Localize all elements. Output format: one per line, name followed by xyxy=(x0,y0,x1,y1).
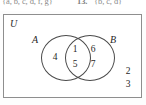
element-b-only-1: 7 xyxy=(88,59,98,69)
cropped-answer-line: {a, b, c, d, f, g} 13. {b, c, d} xyxy=(0,0,146,11)
element-outside-1: 3 xyxy=(123,79,133,89)
venn-diagram-figure: {a, b, c, d, f, g} 13. {b, c, d} U A B 4… xyxy=(0,0,146,105)
element-intersection-0: 1 xyxy=(70,44,80,54)
element-b-only-0: 6 xyxy=(88,44,98,54)
element-a-only-0: 4 xyxy=(50,52,60,62)
element-intersection-1: 5 xyxy=(70,59,80,69)
element-outside-0: 2 xyxy=(123,66,133,76)
set-b-label: B xyxy=(110,34,116,45)
set-a-label: A xyxy=(32,34,38,45)
set-b-circle xyxy=(65,35,115,81)
universal-set-label: U xyxy=(10,18,17,29)
answer-right-set: {b, c, d} xyxy=(94,0,122,6)
exercise-number: 13. xyxy=(77,0,87,6)
answer-left-set: {a, b, c, d, f, g} xyxy=(2,0,53,6)
